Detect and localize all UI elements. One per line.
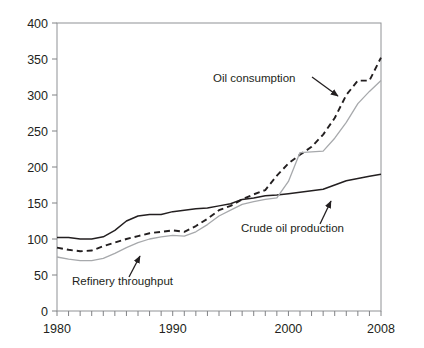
y-tick-label: 300 [27, 89, 48, 103]
y-tick-label: 400 [27, 17, 48, 31]
y-tick-label: 200 [27, 161, 48, 175]
annotation-arrow-oil-consumption [312, 77, 338, 96]
y-tick-label: 250 [27, 125, 48, 139]
x-tick-label: 2000 [275, 322, 303, 336]
y-tick-label: 0 [41, 305, 48, 319]
annotation-arrow-refinery-throughput [129, 256, 140, 277]
annotation-label-oil-consumption: Oil consumption [213, 72, 295, 84]
y-tick-label: 150 [27, 197, 48, 211]
y-tick-label: 50 [34, 269, 48, 283]
y-axis-tick-labels: 050100150200250300350400 [27, 17, 48, 319]
y-tick-label: 100 [27, 233, 48, 247]
annotation-label-crude-oil-production: Crude oil production [241, 222, 344, 234]
chart-container: 050100150200250300350400 198019902000200… [0, 0, 424, 348]
plot-frame [57, 23, 381, 311]
x-tick-label: 1990 [159, 322, 187, 336]
x-axis-ticks [57, 311, 381, 316]
annotation-arrow-crude-oil-production [320, 201, 331, 224]
y-tick-label: 350 [27, 53, 48, 67]
line-chart: 050100150200250300350400 198019902000200… [0, 0, 424, 348]
x-tick-label: 2008 [367, 322, 395, 336]
annotation-label-refinery-throughput: Refinery throughput [72, 275, 174, 287]
x-axis-tick-labels: 1980199020002008 [43, 322, 395, 336]
x-tick-label: 1980 [43, 322, 71, 336]
y-axis-ticks [52, 23, 57, 311]
